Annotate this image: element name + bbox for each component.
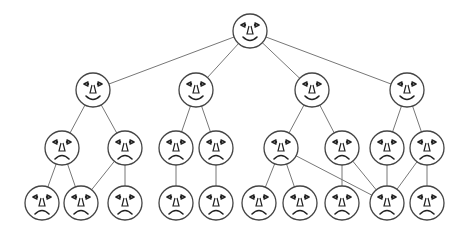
face-outline bbox=[410, 131, 444, 165]
face-tree-diagram bbox=[0, 0, 467, 233]
nodes bbox=[25, 14, 444, 220]
sad-face-node bbox=[199, 186, 233, 220]
face-outline bbox=[325, 186, 359, 220]
face-outline bbox=[390, 73, 424, 107]
happy-face-node bbox=[295, 73, 329, 107]
sad-face-node bbox=[45, 131, 79, 165]
sad-face-node bbox=[159, 186, 193, 220]
face-outline bbox=[45, 131, 79, 165]
face-outline bbox=[370, 131, 404, 165]
face-outline bbox=[64, 186, 98, 220]
sad-face-node bbox=[410, 131, 444, 165]
happy-face-node bbox=[76, 73, 110, 107]
sad-face-node bbox=[264, 131, 298, 165]
face-outline bbox=[283, 186, 317, 220]
face-outline bbox=[159, 131, 193, 165]
sad-face-node bbox=[199, 131, 233, 165]
face-outline bbox=[295, 73, 329, 107]
face-outline bbox=[264, 131, 298, 165]
sad-face-node bbox=[108, 131, 142, 165]
face-outline bbox=[25, 186, 59, 220]
sad-face-node bbox=[410, 186, 444, 220]
face-outline bbox=[108, 186, 142, 220]
edge-r-a bbox=[93, 31, 250, 90]
sad-face-node bbox=[370, 131, 404, 165]
face-outline bbox=[199, 186, 233, 220]
face-outline bbox=[159, 186, 193, 220]
happy-face-node bbox=[390, 73, 424, 107]
sad-face-node bbox=[108, 186, 142, 220]
sad-face-node bbox=[325, 186, 359, 220]
face-outline bbox=[370, 186, 404, 220]
sad-face-node bbox=[159, 131, 193, 165]
edge-r-d bbox=[250, 31, 407, 90]
sad-face-node bbox=[325, 131, 359, 165]
face-outline bbox=[242, 186, 276, 220]
sad-face-node bbox=[64, 186, 98, 220]
face-outline bbox=[410, 186, 444, 220]
tree-svg bbox=[0, 0, 467, 233]
face-outline bbox=[233, 14, 267, 48]
face-outline bbox=[199, 131, 233, 165]
happy-face-node bbox=[233, 14, 267, 48]
happy-face-node bbox=[179, 73, 213, 107]
face-outline bbox=[108, 131, 142, 165]
face-outline bbox=[325, 131, 359, 165]
sad-face-node bbox=[25, 186, 59, 220]
face-outline bbox=[76, 73, 110, 107]
sad-face-node bbox=[242, 186, 276, 220]
edges bbox=[42, 31, 427, 203]
sad-face-node bbox=[370, 186, 404, 220]
sad-face-node bbox=[283, 186, 317, 220]
face-outline bbox=[179, 73, 213, 107]
